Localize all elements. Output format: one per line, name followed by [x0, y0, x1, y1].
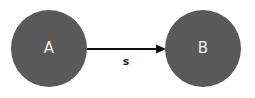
node-a-label: A: [44, 41, 54, 56]
diagram-canvas: A B s: [0, 0, 255, 98]
node-b-label: B: [198, 41, 208, 56]
node-a: A: [11, 10, 87, 87]
edge-label: s: [120, 56, 132, 67]
node-b: B: [165, 10, 241, 87]
